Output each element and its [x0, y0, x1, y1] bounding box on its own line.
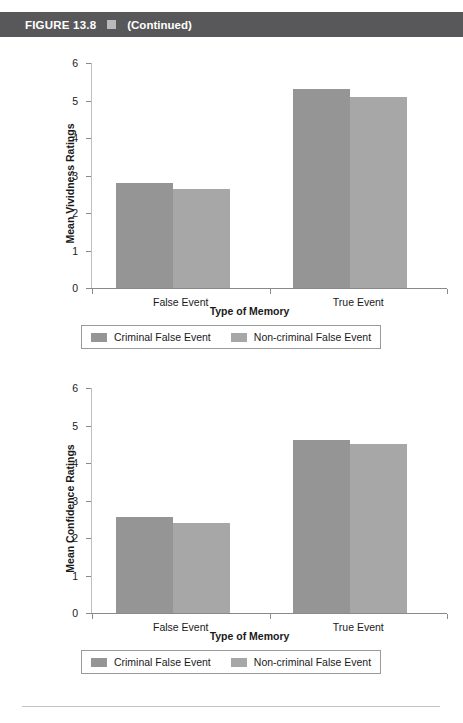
legend-label-noncriminal: Non-criminal False Event	[254, 656, 371, 668]
x-tick-mark	[447, 614, 448, 619]
legend-item-noncriminal: Non-criminal False Event	[231, 656, 371, 668]
figure-continued-label: (Continued)	[127, 19, 192, 31]
x-tick-mark	[270, 614, 271, 619]
bar-vividness-false-event-criminal	[116, 183, 173, 288]
legend-swatch-icon-criminal	[91, 333, 107, 342]
y-tick-label: 6	[54, 57, 78, 69]
bar-confidence-false-event-criminal	[116, 517, 173, 613]
y-tick-label: 6	[54, 382, 78, 394]
legend-item-noncriminal: Non-criminal False Event	[231, 331, 371, 343]
plot-wrap-vividness: 0123456 Mean Vividness Ratings False Eve…	[52, 63, 447, 288]
y-axis-title: Mean Confidence Ratings	[62, 396, 78, 621]
figure-page: FIGURE 13.8 (Continued) 0123456 Mean Viv…	[0, 0, 463, 723]
figure-number-label: FIGURE 13.8	[25, 19, 96, 31]
x-tick-mark	[447, 289, 448, 294]
x-tick-mark	[92, 289, 93, 294]
square-bullet-icon	[107, 20, 116, 29]
legend-item-criminal: Criminal False Event	[91, 331, 211, 343]
legend-label-criminal: Criminal False Event	[114, 331, 211, 343]
bar-vividness-true-event-criminal	[293, 89, 350, 288]
legend-swatch-icon-criminal	[91, 658, 107, 667]
chart-confidence: 0123456 Mean Confidence Ratings False Ev…	[0, 380, 463, 685]
y-axis-title: Mean Vividness Ratings	[62, 71, 78, 296]
bars-container	[92, 63, 447, 288]
bar-vividness-false-event-noncriminal	[173, 189, 230, 288]
x-axis-title: Type of Memory	[52, 305, 447, 317]
legend-label-noncriminal: Non-criminal False Event	[254, 331, 371, 343]
legend-label-criminal: Criminal False Event	[114, 656, 211, 668]
bars-container	[92, 388, 447, 613]
bar-confidence-true-event-noncriminal	[350, 444, 407, 613]
x-axis-title: Type of Memory	[52, 630, 447, 642]
legend-swatch-icon-noncriminal	[231, 658, 247, 667]
legend-confidence: Criminal False Event Non-criminal False …	[81, 650, 381, 674]
figure-header-bar: FIGURE 13.8 (Continued)	[0, 12, 463, 37]
bar-confidence-true-event-criminal	[293, 440, 350, 613]
bar-confidence-false-event-noncriminal	[173, 523, 230, 613]
chart-vividness: 0123456 Mean Vividness Ratings False Eve…	[0, 55, 463, 360]
x-tick-mark	[92, 614, 93, 619]
footer-divider	[22, 706, 440, 707]
plot-wrap-confidence: 0123456 Mean Confidence Ratings False Ev…	[52, 388, 447, 613]
bar-vividness-true-event-noncriminal	[350, 97, 407, 288]
legend-item-criminal: Criminal False Event	[91, 656, 211, 668]
x-tick-mark	[270, 289, 271, 294]
legend-vividness: Criminal False Event Non-criminal False …	[81, 325, 381, 349]
legend-swatch-icon-noncriminal	[231, 333, 247, 342]
